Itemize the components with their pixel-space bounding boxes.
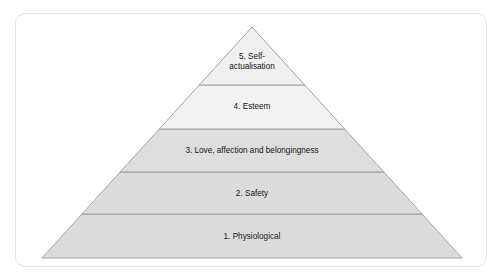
pyramid-tier-3-label: 3. Love, affection and belongingness [185, 146, 318, 155]
figure-root: 5. Self-actualisation 4. Esteem 3. Love,… [0, 0, 502, 279]
pyramid-tier-1-label: 1. Physiological [224, 232, 281, 241]
pyramid-tier-4-label: 4. Esteem [234, 102, 271, 111]
pyramid-tier-2-label: 2. Safety [236, 189, 269, 198]
maslow-pyramid-diagram: 5. Self-actualisation 4. Esteem 3. Love,… [0, 0, 502, 279]
